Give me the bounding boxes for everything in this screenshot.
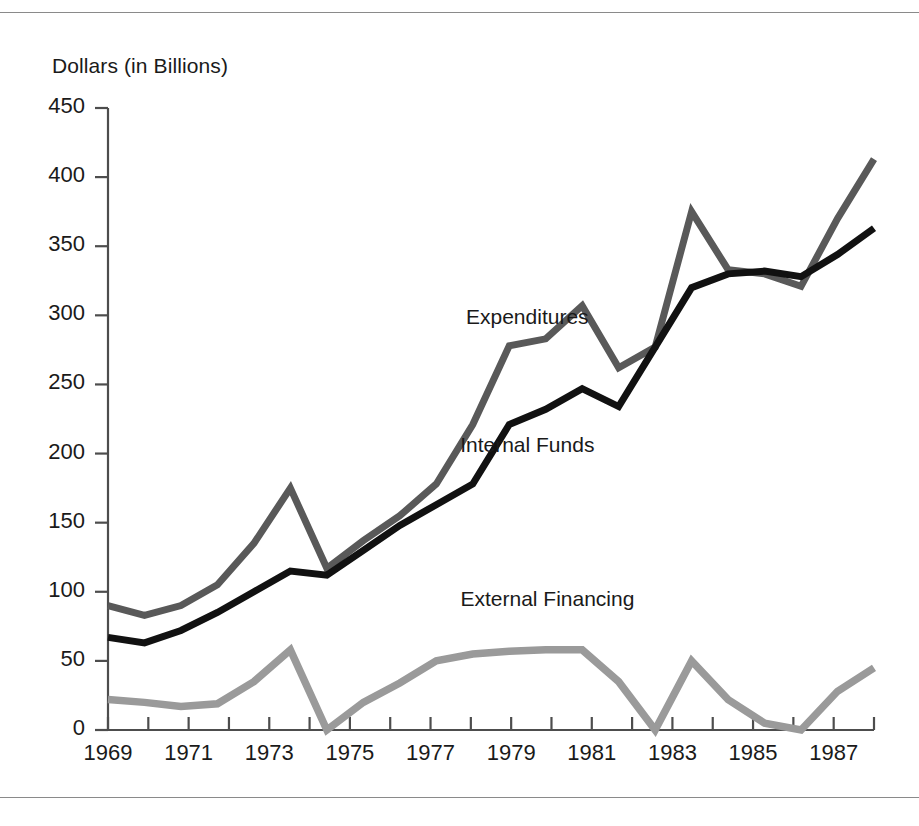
chart-figure: Dollars (in Billions) 050100150200250300… (0, 0, 919, 826)
y-axis-tick-label: 350 (29, 231, 85, 257)
x-axis-tick-label: 1987 (794, 740, 874, 766)
y-axis-tick-label: 300 (29, 300, 85, 326)
line-chart-plot (0, 0, 919, 826)
series-annotation-expenditures: Expenditures (466, 305, 589, 329)
y-axis-tick-label: 400 (29, 162, 85, 188)
axes (95, 108, 874, 730)
y-axis-tick-label: 250 (29, 369, 85, 395)
x-axis-tick-label: 1981 (552, 740, 632, 766)
x-axis-tick-label: 1973 (229, 740, 309, 766)
series-annotation-external-financing: External Financing (460, 587, 634, 611)
y-axis-tick-label: 450 (29, 93, 85, 119)
x-axis-tick-label: 1983 (632, 740, 712, 766)
y-axis-tick-label: 0 (29, 715, 85, 741)
series-line-external-financing (108, 650, 874, 730)
y-axis-tick-label: 150 (29, 508, 85, 534)
x-axis-tick-label: 1979 (471, 740, 551, 766)
x-axis-tick-label: 1969 (68, 740, 148, 766)
series-annotation-internal-funds: Internal Funds (460, 433, 594, 457)
y-axis-tick-label: 50 (29, 646, 85, 672)
x-axis-tick-label: 1985 (713, 740, 793, 766)
series-line-expenditures (108, 159, 874, 615)
x-axis-tick-label: 1977 (391, 740, 471, 766)
x-axis-tick-label: 1975 (310, 740, 390, 766)
y-axis-tick-label: 200 (29, 439, 85, 465)
y-axis-tick-label: 100 (29, 577, 85, 603)
x-axis-tick-label: 1971 (149, 740, 229, 766)
